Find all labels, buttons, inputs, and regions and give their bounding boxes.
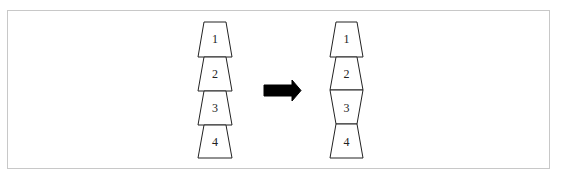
right-block-3-flipped: 3 — [330, 90, 363, 124]
left-block-4: 4 — [198, 125, 232, 158]
left-block-1: 1 — [198, 22, 232, 57]
block-label: 3 — [212, 101, 218, 115]
block-label: 2 — [344, 67, 350, 81]
right-block-1: 1 — [330, 22, 363, 57]
right-block-4: 4 — [330, 124, 363, 158]
diagram-canvas: 1 2 3 4 1 — [0, 0, 561, 180]
block-label: 1 — [212, 32, 218, 46]
block-label: 3 — [344, 101, 350, 115]
right-block-2: 2 — [330, 57, 363, 90]
right-arrow-icon — [264, 80, 301, 101]
left-stack: 1 2 3 4 — [198, 22, 232, 158]
block-label: 4 — [212, 135, 218, 149]
block-label: 1 — [344, 32, 350, 46]
left-block-2: 2 — [198, 57, 232, 91]
block-label: 2 — [212, 67, 218, 81]
left-block-3: 3 — [198, 91, 232, 125]
block-label: 4 — [344, 135, 350, 149]
right-stack: 1 2 3 4 — [330, 22, 363, 158]
